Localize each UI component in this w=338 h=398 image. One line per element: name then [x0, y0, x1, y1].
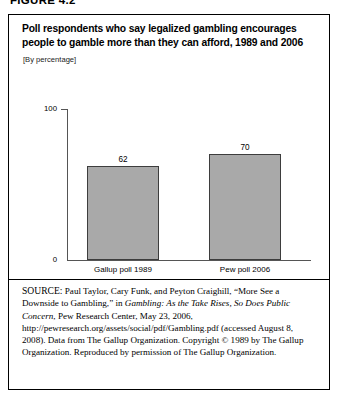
chart-title: Poll respondents who say legalized gambl…	[22, 22, 318, 49]
x-axis-label-pew-2006: Pew poll 2006	[190, 265, 300, 274]
bar-value-gallup-1989: 62	[87, 155, 159, 164]
y-axis-label-0: 0	[27, 255, 57, 264]
y-axis-label-100: 100	[27, 104, 57, 113]
source-prefix: SOURCE:	[22, 285, 63, 296]
figure-border-box: Poll respondents who say legalized gambl…	[8, 14, 330, 390]
units-note: [By percentage]	[23, 55, 76, 64]
y-axis-line	[67, 109, 68, 261]
figure-root: FIGURE 4.2 Poll respondents who say lega…	[0, 0, 338, 398]
source-note: SOURCE: Paul Taylor, Cary Funk, and Peyt…	[22, 285, 318, 359]
x-axis-label-gallup-1989: Gallup poll 1989	[68, 265, 178, 274]
bar-gallup-1989	[87, 166, 159, 260]
bar-pew-2006	[209, 154, 281, 260]
source-divider	[9, 279, 329, 280]
y-axis-tick-100	[61, 109, 67, 110]
bar-value-pew-2006: 70	[209, 143, 281, 152]
x-axis-line	[67, 260, 311, 261]
plot-area: 100 0 62 Gallup poll 1989 70 Pew poll 20…	[23, 73, 317, 283]
source-text-part-2: , Pew Research Center, May 23, 2006, htt…	[22, 311, 303, 358]
figure-number-label: FIGURE 4.2	[10, 0, 76, 6]
